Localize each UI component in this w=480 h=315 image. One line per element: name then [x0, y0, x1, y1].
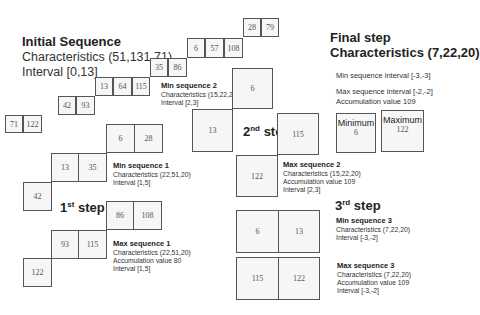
seq-box: 42 [58, 96, 76, 115]
min-seq3-interval: Interval [-3,-2] [336, 233, 378, 242]
step1-max-box: 93 [51, 230, 79, 259]
step3-min-box: 13 [278, 210, 320, 253]
step1-min-box: 42 [23, 182, 52, 211]
min-seq3-title: Min sequence 3 [336, 216, 392, 225]
step2-max-box: 115 [277, 113, 319, 155]
step1-max-box: 108 [133, 201, 162, 230]
final-minimum-box: Minimum 6 [336, 113, 376, 153]
seq-box: 6 [187, 38, 205, 58]
seq-box: 35 [150, 58, 168, 77]
max-seq1-title: Max sequence 1 [113, 239, 171, 248]
step1-max-box: 122 [23, 258, 52, 287]
minimum-value: 6 [337, 128, 375, 137]
step3-max-box: 122 [278, 257, 320, 300]
step3-min-box: 6 [236, 210, 279, 253]
seq-box: 13 [95, 77, 113, 96]
seq-box: 64 [113, 77, 132, 96]
step3-max-box: 115 [236, 257, 279, 300]
final-step-title: Final step [330, 30, 391, 45]
maximum-value: 122 [382, 125, 423, 134]
initial-interval: Interval [0,13] [22, 65, 98, 79]
seq-box: 71 [5, 115, 23, 133]
max-seq2-title: Max sequence 2 [283, 160, 341, 169]
seq-box: 122 [23, 115, 42, 133]
max-seq3-title: Max sequence 3 [337, 261, 395, 270]
max-seq1-interval: Interval [1,5] [113, 264, 150, 273]
max-seq3-interval: Interval [-3,-2] [337, 286, 379, 295]
step2-min-box: 13 [192, 109, 233, 152]
initial-sequence-title: Initial Sequence [22, 34, 121, 49]
maximum-label: Maximum [382, 115, 423, 125]
min-seq2-title: Min sequence 2 [161, 81, 217, 90]
final-accumulation: Accumulation value 109 [336, 97, 416, 106]
min-seq2-interval: Interval [2,3] [161, 98, 198, 107]
minimum-label: Minimum [337, 118, 375, 128]
step1-min-box: 13 [51, 153, 79, 182]
step1-label: 1st step [60, 200, 105, 215]
step1-max-box: 86 [106, 201, 134, 230]
seq-box: 79 [261, 18, 279, 37]
seq-box: 28 [243, 18, 261, 37]
seq-box: 57 [205, 38, 224, 58]
seq-box: 108 [224, 38, 243, 58]
seq-box: 115 [132, 77, 150, 96]
step3-label: 3rd step [335, 198, 381, 213]
min-seq1-interval: Interval [1,5] [113, 178, 150, 187]
final-min-interval: Min sequence interval [-3,-3] [336, 71, 431, 80]
step2-min-box: 6 [232, 68, 273, 109]
step2-max-box: 122 [236, 155, 278, 197]
step1-min-box: 28 [134, 124, 163, 153]
step1-min-box: 35 [78, 153, 107, 182]
max-seq2-interval: Interval [2,3] [283, 185, 320, 194]
seq-box: 86 [168, 58, 187, 77]
step1-max-box: 115 [78, 230, 107, 259]
min-seq1-title: Min sequence 1 [113, 161, 169, 170]
seq-box: 93 [76, 96, 95, 115]
final-characteristics: Characteristics (7,22,20) [330, 45, 480, 60]
final-max-interval: Max sequence interval [-2,-2] [336, 87, 433, 96]
step1-min-box: 6 [106, 124, 135, 153]
final-maximum-box: Maximum 122 [381, 110, 424, 152]
